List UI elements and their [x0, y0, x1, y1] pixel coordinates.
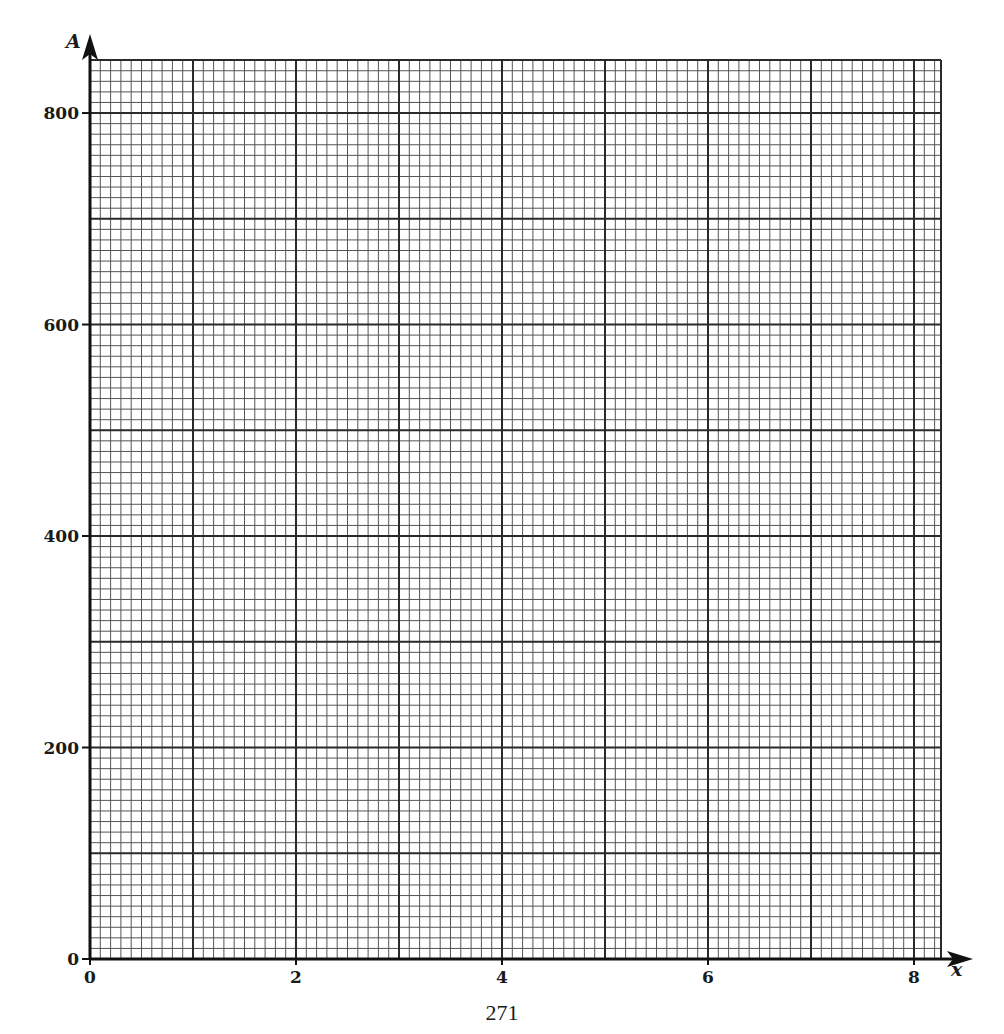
y-axis-label: A: [64, 30, 81, 52]
x-tick-label: 6: [702, 967, 714, 987]
page-number: 271: [0, 1000, 1004, 1026]
y-tick-label: 200: [44, 738, 80, 758]
graph-paper-chart: 02468 0200400600800 x A: [0, 0, 1004, 1034]
y-tick-labels: 0200400600800: [44, 103, 80, 969]
y-tick-label: 0: [67, 949, 79, 969]
x-tick-labels: 02468: [84, 967, 920, 987]
x-axis-label: x: [950, 958, 963, 980]
major-grid: [90, 60, 941, 959]
y-tick-label: 600: [44, 315, 80, 335]
x-tick-label: 2: [290, 967, 302, 987]
y-tick-label: 800: [44, 103, 80, 123]
x-tick-label: 0: [84, 967, 96, 987]
x-tick-label: 8: [908, 967, 920, 987]
axes: [82, 34, 973, 967]
x-tick-label: 4: [496, 967, 508, 987]
y-tick-label: 400: [44, 526, 80, 546]
minor-grid: [90, 60, 941, 959]
